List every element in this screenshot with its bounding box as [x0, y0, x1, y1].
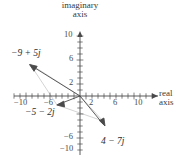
point-label-minus9-plus5j: −9 + 5j [11, 49, 41, 59]
y-tick-label-6: 6 [69, 54, 73, 63]
x-tick-label-6: 6 [113, 98, 117, 107]
x-tick-label-minus10: −10 [14, 98, 27, 107]
real-axis-title: real axis [159, 89, 183, 108]
real-axis-title-line2: axis [159, 98, 183, 107]
y-tick-label-10: 10 [64, 30, 73, 39]
imaginary-axis-title-line2: axis [50, 10, 110, 19]
y-tick-label-minus10: −10 [60, 144, 73, 153]
y-tick-label-2: 2 [69, 78, 73, 87]
x-tick-label-10: 10 [134, 98, 143, 107]
vector-minus5-minus2j [57, 96, 80, 107]
imaginary-axis-title: imaginary axis [50, 1, 110, 20]
x-axis-arrowhead [152, 93, 158, 99]
x-tick-label-2: 2 [89, 98, 93, 107]
y-tick-label-minus6: −6 [64, 132, 73, 141]
complex-plane-figure: imaginary axis real axis −10 −6 2 6 10 1… [0, 0, 184, 164]
complex-plane-axes-and-vectors [0, 0, 184, 164]
point-label-minus5-minus2j: −5 − 2j [25, 108, 55, 118]
point-label-4-minus7j: 4 − 7j [101, 137, 124, 147]
x-tick-label-minus6: −6 [44, 98, 53, 107]
